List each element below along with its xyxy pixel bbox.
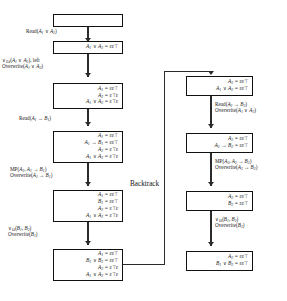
arrowhead-r1-r2	[208, 124, 214, 128]
state-box-l5: A1 = εε⊤ B1 ∨ B2 = εε⊤ A2 = ε⊤ε A1 ∨ A2 …	[53, 249, 123, 281]
edge-label-read-a2-implies-b2: Read(A2 → B2) Overwrite(A1 ∨ A2)	[215, 102, 256, 114]
state-box-l3: A1 = εε⊤ A1 → B1 = εε⊤ A2 = ε⊤ε A1 ∨ A2 …	[53, 131, 123, 163]
state-box-l1: A1 ∨ A2 = εε⊤	[53, 41, 123, 54]
backtrack-connector-top-horizontal	[164, 71, 211, 72]
edge-label-or-intro-b1: ∨Id(B1, B2) Overwrite(B1)	[8, 226, 38, 238]
backtrack-label: Backtrack	[130, 180, 159, 188]
arrowhead-backtrack-into-r1	[208, 71, 214, 75]
state-box-l0	[53, 14, 123, 27]
edge-label-mp-a2: MP(A2, A2 → B2) Overwrite(A2 → B2)	[215, 159, 257, 171]
arrowhead-l1-l2	[85, 73, 91, 77]
state-box-r3: A2 = εε⊤ B2 = εε⊤	[186, 191, 253, 211]
edge-label-or-elim-left: ∨Ed(A1 ∨ A2), left Overwrite(A1 ∨ A2)	[2, 58, 43, 70]
state-box-r4: A2 = εε⊤ B1 ∨ B2 = εε⊤	[186, 251, 253, 271]
backtrack-connector-horizontal	[123, 264, 165, 265]
backtrack-connector-vertical	[164, 71, 165, 265]
arrowhead-r2-r3	[208, 182, 214, 186]
edge-label-read-a1-or-a2: Read(A1 ∨ A2)	[26, 29, 57, 35]
edge-label-or-intro-b2: ∨Id(B1, B2) Overwrite(B2)	[215, 217, 245, 229]
arrowhead-l3-l4	[85, 182, 91, 186]
arrowhead-l2-l3	[85, 122, 91, 126]
arrowhead-l4-l5	[85, 241, 91, 245]
edge-label-mp-a1: MP(A1, A1 → B1) Overwrite(A1 → B1)	[10, 167, 52, 179]
arrowhead-r3-r4	[208, 242, 214, 246]
edge-label-read-a1-implies-b1: Read(A1 → B1)	[19, 116, 51, 122]
state-box-l4: A1 = εε⊤ B1 = εε⊤ A2 = ε⊤ε A1 ∨ A2 = ε⊤ε	[53, 190, 123, 222]
proof-search-flow-diagram: Read(A1 ∨ A2) A1 ∨ A2 = εε⊤ ∨Ed(A1 ∨ A2)…	[0, 0, 287, 301]
connector-r3-r4	[210, 211, 211, 246]
state-box-r1: A2 = εε⊤ A1 ∨ A2 = εε⊤	[186, 76, 253, 96]
state-box-l2: A1 = εε⊤ A2 = ε⊤ε A1 ∨ A2 = ε⊤ε	[53, 83, 123, 109]
state-box-r2: A2 = εε⊤ A2 → B2 = εε⊤	[186, 133, 253, 153]
